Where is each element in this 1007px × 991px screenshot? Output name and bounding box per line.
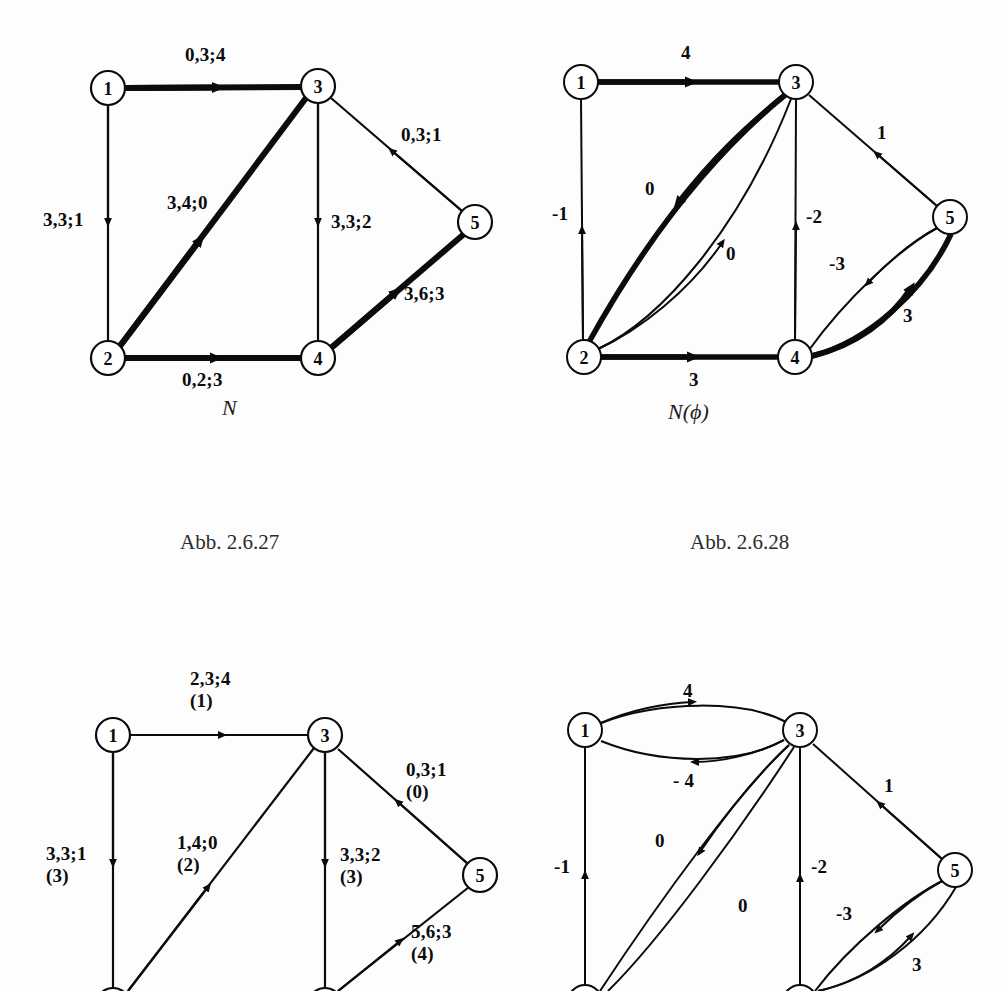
edge-label-2-3-phi: 0	[726, 243, 736, 264]
node-2[interactable]: 2	[567, 340, 601, 374]
node-1[interactable]: 1	[96, 718, 130, 752]
edge-label-5-3-phi: 1	[877, 122, 887, 143]
edge-label-1-3-lower-line1: 2,3;4	[190, 669, 231, 689]
node-3[interactable]: 3	[301, 69, 335, 103]
edge-label-4-5-phi-lower: 3	[912, 954, 922, 975]
edge-3-1	[601, 740, 784, 762]
node-label: 2	[104, 349, 113, 369]
edge-1-3	[125, 87, 301, 88]
edge-5-3	[809, 95, 937, 206]
edge-label-1-3-phi: 4	[681, 42, 691, 63]
node-3[interactable]: 3	[308, 718, 342, 752]
edge-5-4	[815, 881, 942, 991]
node-5[interactable]: 5	[938, 853, 972, 887]
edge-3-2	[600, 745, 789, 991]
diagram-network-N-phi: 1 2 3 4 5	[520, 0, 1007, 440]
node-3[interactable]: 3	[783, 713, 817, 747]
edge-5-3	[331, 98, 462, 211]
edge-label-3-4-lower-line2: (3)	[340, 867, 363, 887]
figure-caption-2627: Abb. 2.6.27	[180, 530, 279, 555]
edge-2-1	[581, 99, 583, 340]
node-label: 5	[476, 866, 485, 886]
node-4-clipped[interactable]	[783, 985, 817, 991]
node-1[interactable]: 1	[91, 71, 125, 105]
edge-2-3	[608, 747, 794, 991]
network-name-N: N	[222, 395, 237, 421]
edge-4-3	[795, 99, 796, 340]
edge-label-2-3-lower-line2: (2)	[177, 855, 200, 875]
edge-label-1-2-lower-line1: 3,3;1	[46, 844, 87, 864]
node-label: 3	[314, 77, 323, 97]
node-label: 1	[104, 79, 113, 99]
node-label: 5	[951, 861, 960, 881]
edge-label-3-1-phi-lower: - 4	[673, 770, 694, 791]
edge-label-4-5-lower-line1: 5,6;3	[411, 922, 452, 942]
edge-label-2-4-phi: 3	[689, 369, 699, 390]
edge-label-2-4: 0,2;3	[182, 369, 223, 390]
edge-label-5-4-phi-lower: -3	[836, 903, 852, 924]
edge-label-5-3-lower-line1: 0,3;1	[406, 760, 447, 780]
node-4[interactable]: 4	[301, 341, 335, 375]
node-label: 3	[796, 721, 805, 741]
node-5[interactable]: 5	[463, 858, 497, 892]
edge-label-1-2-lower-line2: (3)	[46, 866, 69, 886]
edge-label-3-2-phi-lower: 0	[655, 830, 665, 851]
edge-label-5-4-phi: -3	[829, 253, 845, 274]
edge-label-1-3-phi-lower: 4	[683, 680, 693, 701]
edge-label-4-3-phi: -2	[806, 206, 822, 227]
node-label: 4	[314, 349, 323, 369]
network-name-N-phi: N(ϕ)	[668, 399, 709, 425]
node-label: 5	[471, 213, 480, 233]
figure-page: 1 2 3 4 5 0,3;4 3,3;1 3,4;0 3,3;2 0,2;3 …	[0, 0, 1007, 991]
edge-label-5-3-phi-lower: 1	[884, 775, 894, 796]
edge-label-1-3: 0,3;4	[185, 44, 226, 65]
node-label: 3	[792, 73, 801, 93]
node-label: 5	[946, 208, 955, 228]
node-label: 2	[580, 348, 589, 368]
edge-2-3	[128, 748, 314, 991]
diagram-network-N-phi-lower: 1 3 5	[520, 640, 1007, 991]
node-4[interactable]: 4	[778, 340, 812, 374]
edge-label-2-1-phi: -1	[552, 203, 568, 224]
edge-2-3	[598, 99, 791, 349]
figure-caption-2628: Abb. 2.6.28	[690, 530, 789, 555]
node-3[interactable]: 3	[779, 65, 813, 99]
edge-label-2-3-lower-line1: 1,4;0	[177, 833, 218, 853]
edge-2-3	[120, 98, 306, 346]
edge-label-4-5-lower-line2: (4)	[411, 944, 434, 964]
edge-label-1-3-lower-line2: (1)	[190, 691, 213, 711]
edge-label-2-3: 3,4;0	[167, 192, 208, 213]
node-label: 1	[581, 721, 590, 741]
node-1[interactable]: 1	[568, 713, 602, 747]
edge-1-3	[601, 702, 786, 723]
node-label: 1	[109, 726, 118, 746]
edge-label-2-3-phi-lower: 0	[738, 895, 748, 916]
node-5[interactable]: 5	[458, 205, 492, 239]
edge-label-4-5: 3,6;3	[404, 283, 445, 304]
node-label: 4	[791, 348, 800, 368]
edge-label-5-3: 0,3;1	[401, 124, 442, 145]
edge-label-3-2-phi: 0	[645, 178, 655, 199]
edge-label-1-2: 3,3;1	[43, 209, 84, 230]
edge-3-2	[589, 95, 785, 342]
edge-5-3	[813, 744, 942, 859]
node-label: 3	[321, 726, 330, 746]
node-label: 1	[577, 73, 586, 93]
edge-label-3-4: 3,3;2	[331, 211, 372, 232]
node-2-clipped[interactable]	[568, 985, 602, 991]
edge-label-5-3-lower-line2: (0)	[406, 782, 429, 802]
edge-label-4-5-phi: 3	[903, 305, 913, 326]
node-1[interactable]: 1	[564, 65, 598, 99]
node-5[interactable]: 5	[933, 200, 967, 234]
edge-label-2-1-phi-lower: -1	[554, 856, 570, 877]
edge-label-4-3-phi-lower: -2	[811, 856, 827, 877]
node-2[interactable]: 2	[91, 341, 125, 375]
edge-label-3-4-lower-line1: 3,3;2	[340, 845, 381, 865]
